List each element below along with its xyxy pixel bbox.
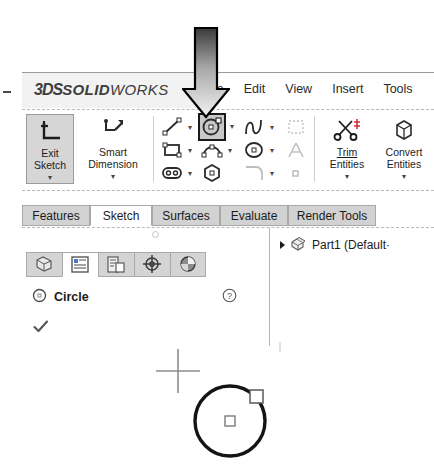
fillet-tool-dropdown-icon[interactable]: ▾ — [270, 170, 274, 178]
ellipse-tool-button[interactable]: ▾ — [242, 139, 268, 161]
ellipse-tool-dropdown-icon[interactable]: ▾ — [270, 147, 274, 155]
fillet-icon — [243, 162, 265, 184]
exit-sketch-button[interactable]: Exit Sketch ▾ — [26, 114, 74, 184]
smart-dimension-icon — [80, 117, 146, 145]
spline-tool-dropdown-icon[interactable]: ▾ — [270, 124, 274, 132]
spline-tool-button[interactable]: ▾ — [242, 116, 268, 138]
arc-icon — [201, 139, 223, 161]
slot-tool-button[interactable]: ▾ — [160, 162, 186, 184]
brand-3ds-text: 3DS — [34, 81, 62, 98]
crosshair-cursor — [156, 349, 200, 393]
trim-entities-button[interactable]: Trim Entities ▾ — [322, 114, 372, 184]
convert-entities-button[interactable]: Convert Entities ▾ — [376, 114, 432, 184]
circle-icon — [201, 115, 223, 137]
trim-entities-dropdown-icon[interactable]: ▾ — [322, 173, 372, 181]
workspace-area: Circle ? Part1 (Default· — [22, 227, 434, 473]
line-tool-button[interactable]: ▾ — [160, 116, 186, 138]
ellipse-icon — [243, 139, 265, 161]
rectangle-icon — [161, 139, 183, 161]
arc-tool-dropdown-icon[interactable]: ▾ — [228, 147, 232, 155]
spline-icon — [243, 116, 265, 138]
circle-tool-button[interactable]: ▾ — [200, 115, 224, 139]
circle-edge-handle[interactable] — [250, 390, 263, 403]
text-icon — [285, 139, 307, 161]
smart-dimension-label-1: Smart — [80, 147, 146, 159]
brand-solid-text: SOLID — [62, 81, 110, 98]
convert-entities-icon — [376, 117, 432, 145]
solidworks-logo: 3DSSOLIDWORKS — [22, 73, 204, 108]
graphics-area[interactable] — [22, 228, 434, 473]
menu-item-edit[interactable]: Edit — [244, 82, 266, 96]
tab-render-tools[interactable]: Render Tools — [288, 205, 376, 226]
point-icon — [285, 162, 307, 184]
exit-sketch-label-1: Exit — [27, 148, 73, 160]
menu-item-insert[interactable]: Insert — [332, 82, 363, 96]
circle-center-handle[interactable] — [225, 416, 235, 426]
sketch-entities-toolgrid: ▾ ▾ ▾ — [160, 116, 310, 184]
polygon-tool-button[interactable] — [200, 162, 226, 184]
tab-surfaces[interactable]: Surfaces — [152, 205, 220, 226]
convert-entities-dropdown-icon[interactable]: ▾ — [376, 173, 432, 181]
exit-sketch-dropdown-icon[interactable]: ▾ — [27, 174, 73, 182]
left-edge-tick — [3, 91, 11, 93]
smart-dimension-button[interactable]: Smart Dimension ▾ — [80, 114, 146, 184]
exit-sketch-icon — [27, 118, 73, 146]
slot-icon — [161, 162, 183, 184]
plane-icon — [285, 116, 307, 138]
line-tool-dropdown-icon[interactable]: ▾ — [188, 124, 192, 132]
rectangle-tool-dropdown-icon[interactable]: ▾ — [188, 147, 192, 155]
tab-sketch[interactable]: Sketch — [90, 205, 152, 226]
point-tool-button[interactable] — [284, 162, 310, 184]
brand-works-text: WORKS — [110, 81, 169, 98]
plane-tool-button[interactable] — [284, 116, 310, 138]
arc-tool-button[interactable]: ▾ — [200, 139, 226, 161]
title-menu-strip: 3DSSOLIDWORKS le Edit View Insert Tools — [22, 73, 434, 110]
trim-entities-icon — [322, 117, 372, 145]
fillet-tool-button[interactable]: ▾ — [242, 162, 268, 184]
tab-evaluate[interactable]: Evaluate — [220, 205, 288, 226]
convert-entities-label-1: Convert — [376, 147, 432, 159]
circle-tool-dropdown-icon[interactable]: ▾ — [230, 123, 234, 131]
ribbon-separator-1 — [153, 116, 154, 182]
command-manager-tabs: Features Sketch Surfaces Evaluate Render… — [22, 205, 434, 227]
text-tool-button[interactable] — [284, 139, 310, 161]
solidworks-logo-text: 3DSSOLIDWORKS — [34, 81, 169, 99]
menu-bar: le Edit View Insert Tools — [214, 82, 413, 96]
exit-sketch-label-2: Sketch — [27, 160, 73, 172]
convert-entities-label-2: Entities — [376, 159, 432, 171]
ribbon-separator-2 — [314, 116, 315, 182]
rectangle-tool-button[interactable]: ▾ — [160, 139, 186, 161]
sketch-ribbon: Exit Sketch ▾ Smart Dimension ▾ — [22, 110, 434, 191]
menu-item-view[interactable]: View — [285, 82, 312, 96]
menu-item-file[interactable]: le — [214, 82, 224, 96]
line-icon — [161, 116, 183, 138]
trim-entities-label-2: Entities — [322, 159, 372, 171]
trim-entities-label-1: Trim — [322, 147, 372, 159]
smart-dimension-label-2: Dimension — [80, 159, 146, 171]
polygon-icon — [201, 162, 223, 184]
menu-item-tools[interactable]: Tools — [383, 82, 412, 96]
smart-dimension-dropdown-icon[interactable]: ▾ — [80, 173, 146, 181]
tab-features[interactable]: Features — [22, 205, 90, 226]
slot-tool-dropdown-icon[interactable]: ▾ — [188, 170, 192, 178]
